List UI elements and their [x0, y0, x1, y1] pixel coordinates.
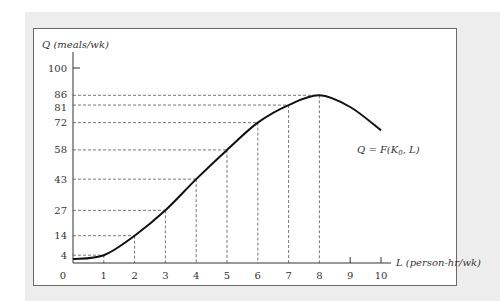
y-tick-label: 81	[54, 102, 67, 113]
x-tick-label: 8	[316, 270, 322, 281]
x-axis-title: L (person-hr/wk)	[395, 257, 481, 268]
y-tick-label: 27	[54, 205, 67, 216]
x-tick-label: 5	[224, 270, 230, 281]
x-tick-label: 2	[131, 270, 137, 281]
x-tick-label: 10	[375, 270, 388, 281]
x-tick-label: 7	[285, 270, 291, 281]
y-tick-label: 58	[54, 144, 67, 155]
x-tick-label: 4	[193, 270, 199, 281]
x-tick-label: 0	[60, 270, 66, 281]
curve-label: Q = F(K0, L)	[357, 144, 420, 157]
y-tick-label: 100	[48, 63, 67, 74]
y-tick-label: 4	[61, 250, 67, 261]
y-axis-title: Q (meals/wk)	[42, 39, 109, 50]
y-tick-label: 43	[54, 174, 67, 185]
x-tick-label: 1	[101, 270, 107, 281]
production-function-chart: 012345678910414274358728186100 Q (meals/…	[0, 0, 500, 301]
axes	[73, 52, 391, 263]
y-tick-label: 72	[54, 117, 67, 128]
x-tick-label: 3	[162, 270, 168, 281]
y-tick-label: 14	[54, 230, 67, 241]
y-tick-label: 86	[54, 89, 67, 100]
x-tick-label: 6	[255, 270, 261, 281]
x-tick-label: 9	[347, 270, 353, 281]
